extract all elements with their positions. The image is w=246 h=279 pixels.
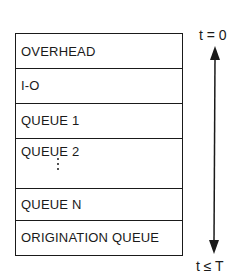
segment-label: QUEUE 2 (21, 144, 79, 159)
time-arrow-icon (205, 46, 225, 256)
segment-queue-2: QUEUE 2 (16, 139, 182, 189)
segment-label: I-O (21, 78, 40, 93)
segment-label: OVERHEAD (21, 44, 96, 59)
time-end-label: t ≤ T (196, 258, 224, 274)
vertical-ellipsis-icon (57, 158, 60, 173)
segment-overhead: OVERHEAD (16, 34, 182, 69)
segment-queue-n: QUEUE N (16, 189, 182, 221)
segment-label: QUEUE N (21, 197, 82, 212)
segment-io: I-O (16, 69, 182, 104)
time-frame-stack: OVERHEAD I-O QUEUE 1 QUEUE 2 QUEUE N ORI… (15, 33, 183, 256)
segment-origination-queue: ORIGINATION QUEUE (16, 221, 182, 255)
segment-label: ORIGINATION QUEUE (21, 230, 159, 245)
time-start-label: t = 0 (199, 27, 227, 43)
segment-label: QUEUE 1 (21, 113, 79, 128)
segment-queue-1: QUEUE 1 (16, 104, 182, 139)
